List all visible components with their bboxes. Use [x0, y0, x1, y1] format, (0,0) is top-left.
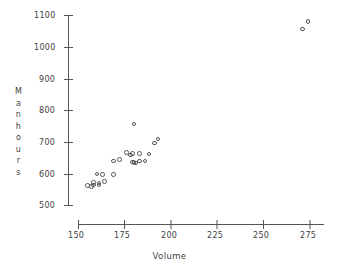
data-point-marker — [143, 159, 148, 164]
data-point-marker — [137, 159, 142, 164]
data-point-marker — [132, 122, 137, 127]
data-point-marker — [111, 172, 116, 177]
data-point-marker — [130, 151, 135, 156]
data-point-marker — [117, 157, 122, 162]
data-point-marker — [102, 179, 107, 184]
data-point-marker — [111, 159, 116, 164]
data-point-marker — [95, 172, 100, 177]
data-point-marker — [137, 151, 142, 156]
data-point-marker — [156, 137, 161, 142]
data-point-marker — [91, 180, 96, 185]
data-points-layer — [0, 0, 339, 272]
data-point-marker — [100, 172, 105, 177]
data-point-marker — [306, 19, 311, 24]
data-point-marker — [147, 152, 152, 157]
data-point-marker — [152, 141, 157, 146]
scatter-plot-figure: 1100 1000 900 800 700 600 500 150 175 20… — [0, 0, 339, 272]
data-point-marker — [300, 27, 305, 32]
